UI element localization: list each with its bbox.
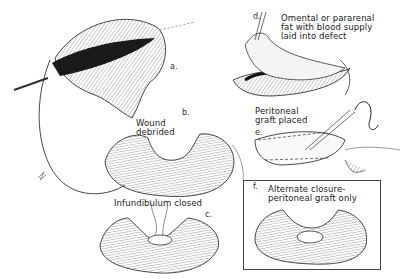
panel-f-letter: f. (253, 182, 258, 191)
artist-signature (38, 172, 46, 180)
panel-d-letter: d. (253, 12, 261, 21)
panel-a-letter: a. (170, 62, 177, 71)
panel-c-caption: Infundibulum closed (114, 199, 202, 208)
panel-e-letter: e. (255, 128, 262, 137)
panel-c-letter: c. (205, 210, 212, 219)
panel-b-letter: b. (182, 108, 190, 117)
panel-b-caption: Wound debrided (136, 119, 175, 137)
panel-b-drawing (105, 134, 234, 197)
panel-e-caption: Peritoneal graft placed (255, 107, 307, 125)
panel-f-caption: Alternate closure- peritoneal graft only (268, 185, 357, 203)
panel-c-drawing (100, 200, 219, 273)
panel-d-caption: Omental or pararenal fat with blood supp… (281, 14, 374, 41)
surgical-illustration: a. b. Wound debrided Infundibulum closed… (0, 0, 406, 279)
